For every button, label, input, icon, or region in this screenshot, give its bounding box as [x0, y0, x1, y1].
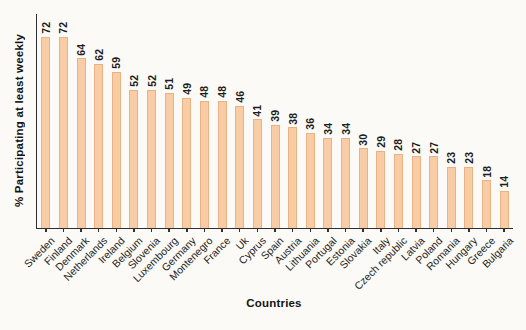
bar-value-label: 62: [92, 49, 105, 61]
bar-value-text: 23: [445, 152, 457, 164]
bar: [306, 133, 315, 229]
bar-value-text: 46: [234, 91, 246, 103]
bar: [429, 156, 438, 228]
y-axis-label-text: % Participating at least weekly: [13, 34, 25, 207]
bar-chart-figure: % Participating at least weekly 72Sweden…: [0, 0, 526, 330]
x-axis-tick: [503, 228, 505, 232]
bar: [253, 119, 262, 228]
bar: [129, 90, 138, 228]
x-axis-tick: [380, 228, 382, 232]
bar-value-label: 72: [57, 22, 70, 34]
bar-value-text: 14: [498, 176, 510, 188]
bar-value-text: 39: [269, 110, 281, 122]
x-axis-tick: [204, 228, 206, 232]
bar: [165, 93, 174, 228]
bar-value-label: 27: [427, 142, 440, 154]
bar-value-label: 48: [216, 86, 229, 98]
bar-value-label: 38: [286, 113, 299, 125]
x-axis-tick: [327, 228, 329, 232]
x-axis-tick: [486, 228, 488, 232]
bar: [376, 151, 385, 228]
bar-value-label: 46: [233, 91, 246, 103]
bar-value-label: 41: [251, 105, 264, 117]
bar: [41, 37, 50, 228]
x-axis-tick: [45, 228, 47, 232]
plot-area: 72Sweden72Finland64Denmark62Netherlands5…: [36, 14, 513, 229]
bar-value-label: 52: [145, 75, 158, 87]
bar: [482, 180, 491, 228]
bar-value-label: 28: [392, 139, 405, 151]
x-axis-tick: [433, 228, 435, 232]
bar-value-text: 62: [93, 49, 105, 61]
x-axis-title: Countries: [36, 297, 512, 309]
bar: [182, 98, 191, 228]
x-axis-tick: [98, 228, 100, 232]
bar-value-label: 72: [39, 22, 52, 34]
bar-value-text: 34: [340, 123, 352, 135]
x-axis-tick: [468, 228, 470, 232]
bar: [323, 138, 332, 228]
x-axis-tick: [239, 228, 241, 232]
x-axis-tick: [274, 228, 276, 232]
x-axis-tick: [415, 228, 417, 232]
x-axis-tick: [168, 228, 170, 232]
bar-value-text: 51: [163, 78, 175, 90]
y-axis-label: % Participating at least weekly: [10, 14, 28, 228]
x-axis-tick: [310, 228, 312, 232]
bar-value-text: 23: [463, 152, 475, 164]
bar-value-text: 52: [146, 75, 158, 87]
bar: [447, 167, 456, 228]
bar-value-label: 51: [163, 78, 176, 90]
bar-value-text: 72: [40, 22, 52, 34]
bar: [394, 154, 403, 228]
bar: [271, 125, 280, 228]
bar-value-label: 27: [410, 142, 423, 154]
bar-value-text: 34: [322, 123, 334, 135]
bar: [464, 167, 473, 228]
bar-value-text: 29: [375, 136, 387, 148]
x-axis-tick: [362, 228, 364, 232]
bar: [341, 138, 350, 228]
bar-value-text: 18: [481, 166, 493, 178]
bar-value-text: 48: [198, 86, 210, 98]
bar: [500, 191, 509, 228]
bar: [77, 58, 86, 228]
bar-value-label: 29: [374, 136, 387, 148]
bar-value-text: 64: [75, 44, 87, 56]
bar-value-text: 41: [251, 105, 263, 117]
bar: [412, 156, 421, 228]
bar: [235, 106, 244, 228]
bar: [94, 64, 103, 228]
bar: [359, 148, 368, 228]
bar-value-text: 30: [357, 134, 369, 146]
bar-value-label: 48: [198, 86, 211, 98]
x-axis-tick: [221, 228, 223, 232]
bar: [112, 72, 121, 229]
bar: [288, 127, 297, 228]
x-axis-tick: [257, 228, 259, 232]
bar-value-label: 34: [339, 123, 352, 135]
x-axis-tick: [133, 228, 135, 232]
bar-value-label: 30: [357, 134, 370, 146]
bar: [59, 37, 68, 228]
bar-value-text: 38: [287, 113, 299, 125]
bar-value-text: 48: [216, 86, 228, 98]
x-axis-tick: [186, 228, 188, 232]
x-axis-tick: [451, 228, 453, 232]
bar-value-text: 52: [128, 75, 140, 87]
bar-value-label: 18: [480, 166, 493, 178]
bar-value-label: 59: [110, 57, 123, 69]
x-axis-tick: [398, 228, 400, 232]
bar-value-text: 27: [410, 142, 422, 154]
x-axis-tick: [63, 228, 65, 232]
bar-value-label: 14: [498, 176, 511, 188]
bar: [200, 101, 209, 228]
bar: [147, 90, 156, 228]
bar-value-label: 23: [462, 152, 475, 164]
bar-value-label: 52: [127, 75, 140, 87]
x-axis-tick: [80, 228, 82, 232]
bar-value-text: 36: [304, 118, 316, 130]
bar-value-label: 49: [180, 83, 193, 95]
bar-value-label: 23: [445, 152, 458, 164]
bar-value-label: 34: [321, 123, 334, 135]
